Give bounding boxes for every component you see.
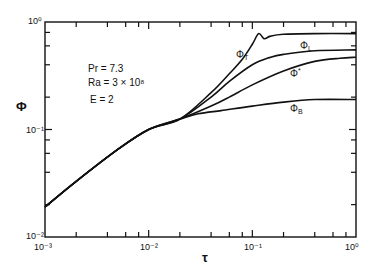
- annotation-pr: Pr = 7.3: [88, 63, 124, 74]
- y-tick-labels: 10⁰ 10⁻¹ 10⁻²: [26, 16, 44, 241]
- y-tick-label-1e-2: 10⁻²: [26, 231, 44, 241]
- curve-label-phi-star: Φ*: [290, 67, 301, 79]
- x-tick-labels: 10⁻³ 10⁻² 10⁻¹ 10⁰: [34, 242, 359, 252]
- annotation-e: E = 2: [90, 94, 114, 105]
- plot-frame: [45, 22, 356, 237]
- x-tick-label-1e-3: 10⁻³: [34, 242, 52, 252]
- curve-label-phi-t: ΦT: [236, 49, 249, 61]
- data-curves: [45, 34, 356, 207]
- phi-vs-tau-chart: 10⁻³ 10⁻² 10⁻¹ 10⁰ 10⁰ 10⁻¹ 10⁻² Φ τ Pr …: [0, 0, 377, 272]
- x-tick-label-1e-1: 10⁻¹: [244, 242, 262, 252]
- y-tick-label-1e0: 10⁰: [28, 16, 42, 26]
- x-axis-label: τ: [202, 250, 208, 265]
- x-tick-label-1e0: 10⁰: [345, 242, 359, 252]
- annotation-ra: Ra = 3 × 10⁸: [88, 77, 144, 88]
- curve-label-phi-l: ΦL: [300, 40, 312, 52]
- y-axis-label: Φ: [16, 99, 27, 114]
- axis-ticks: [45, 22, 356, 237]
- curve-label-phi-b: ΦB: [290, 103, 303, 115]
- curve-phi-b: [45, 99, 356, 207]
- y-tick-label-1e-1: 10⁻¹: [26, 125, 44, 135]
- parameter-annotations: Pr = 7.3 Ra = 3 × 10⁸ E = 2: [88, 63, 144, 105]
- x-tick-label-1e-2: 10⁻²: [140, 242, 158, 252]
- curve-phi-t: [45, 34, 356, 207]
